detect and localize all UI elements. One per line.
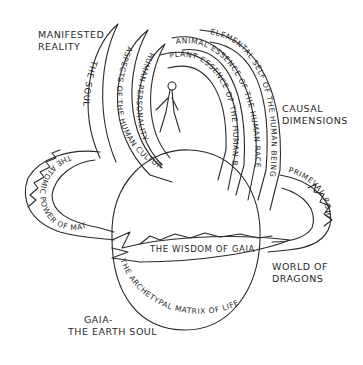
label-earth-soul: THE EARTH SOUL [67, 326, 157, 337]
gaia-diagram: THE SOUL ASPECTS OF THE HUMAN CULTURE HU… [0, 0, 363, 365]
plant-band [160, 52, 238, 190]
band-the-soul: THE SOUL [81, 58, 99, 106]
label-dimensions: DIMENSIONS [282, 115, 348, 126]
label-world-of: WORLD OF [272, 261, 328, 272]
animal-band [172, 37, 256, 200]
label-dragons: DRAGONS [272, 273, 323, 284]
label-causal: CAUSAL [282, 103, 323, 114]
label-gaia: GAIA- [84, 314, 113, 325]
band-wisdom-of-gaia: THE WISDOM OF GAIA [149, 244, 255, 254]
band-human-personality: HUMAN PERSONALITY [135, 51, 157, 142]
band-archetypal-matrix: THE ARCHETYPAL MATRIX OF LIFE [118, 256, 241, 315]
walking-human-figure-icon [156, 82, 180, 132]
soul-band [88, 24, 118, 162]
label-manifested: MANIFESTED [38, 29, 104, 40]
label-reality: REALITY [38, 41, 80, 52]
